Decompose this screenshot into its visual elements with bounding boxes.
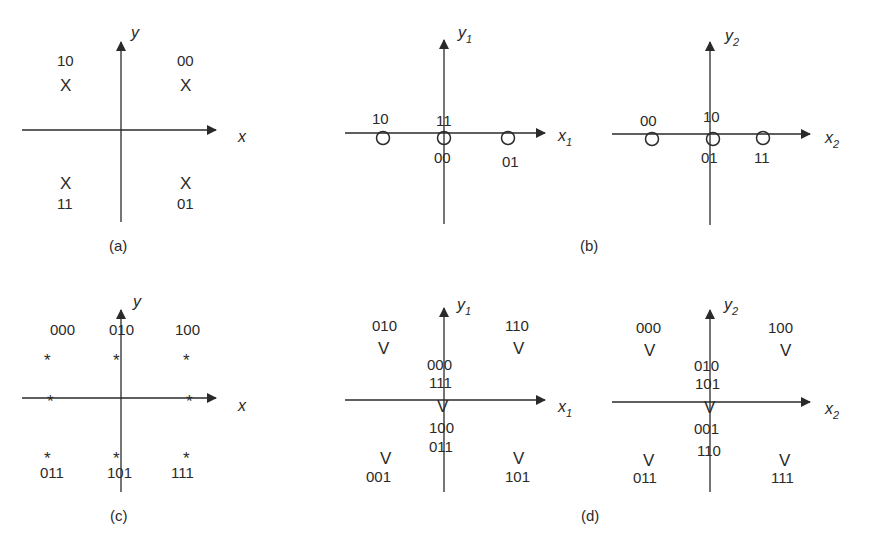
panel-c: y x 000 010 100 * * * * * * * * 011 101 … (22, 293, 247, 524)
caption-c: (c) (110, 507, 128, 524)
point-label: 010 (372, 317, 397, 334)
point-label: 000 (50, 321, 75, 338)
caption-b: (b) (580, 237, 598, 254)
point-label: 01 (701, 149, 718, 166)
panel-a: y x 10 X 00 X X 11 X 01 (a) (22, 24, 247, 254)
v-marker: V (704, 398, 716, 417)
panel-d-right: y2 x2 000 V 100 V 010 101 V 001 110 V 01… (581, 296, 839, 524)
panel-d-left: y1 x1 010 V 110 V 000 111 V 100 011 V 00… (345, 296, 572, 492)
v-marker: V (779, 451, 791, 470)
point-label: 101 (695, 375, 720, 392)
y2-axis-label: y2 (723, 296, 738, 317)
y1-axis-label: y1 (456, 296, 471, 317)
x-marker: X (180, 174, 191, 193)
point-label: 00 (177, 52, 194, 69)
point-label: 111 (171, 464, 194, 481)
point-label: 00 (640, 112, 657, 129)
asterisk-marker: * (183, 351, 190, 370)
constellation-figure: y x 10 X 00 X X 11 X 01 (a) y1 x1 10 11 … (0, 0, 872, 555)
point-label: 100 (768, 319, 793, 336)
point-label: 111 (771, 469, 794, 486)
x2-axis-label: x2 (824, 129, 839, 150)
v-marker: V (380, 449, 392, 468)
x-marker: X (60, 76, 71, 95)
point-label: 110 (505, 317, 529, 334)
point-label: 110 (697, 442, 721, 459)
y-axis-label: y (130, 24, 140, 41)
point-label: 011 (633, 469, 657, 486)
point-label: 011 (429, 438, 453, 455)
v-marker: V (378, 339, 390, 358)
y2-axis-label: y2 (724, 27, 739, 48)
point-label: 011 (40, 464, 64, 481)
asterisk-marker: * (44, 351, 51, 370)
v-marker: V (780, 341, 792, 360)
v-marker: V (513, 339, 525, 358)
point-label: 01 (177, 195, 194, 212)
point-label: 11 (436, 112, 452, 129)
point-label: 01 (502, 153, 519, 170)
point-label: 001 (694, 420, 719, 437)
y1-axis-label: y1 (457, 24, 472, 45)
point-label: 10 (703, 108, 720, 125)
x-marker: X (180, 76, 191, 95)
x2-axis-label: x2 (824, 400, 839, 421)
point-label: 10 (57, 52, 74, 69)
point-label: 000 (636, 319, 661, 336)
point-label: 101 (107, 464, 132, 481)
point-label: 00 (434, 149, 451, 166)
asterisk-marker: * (47, 392, 54, 411)
x1-axis-label: x1 (557, 127, 572, 148)
point-label: 001 (366, 468, 391, 485)
x1-axis-label: x1 (557, 398, 572, 419)
point-label: 11 (57, 195, 73, 212)
x-axis-label: x (237, 397, 247, 414)
point-label: 010 (109, 321, 134, 338)
v-marker: V (513, 449, 525, 468)
point-label: 100 (429, 419, 454, 436)
point-label: 101 (505, 468, 530, 485)
asterisk-marker: * (186, 392, 193, 411)
x-axis-label: x (237, 128, 247, 145)
y-axis-label: y (132, 293, 142, 310)
x-marker: X (60, 174, 71, 193)
point-label: 100 (175, 321, 200, 338)
panel-b-left: y1 x1 10 11 00 01 (345, 24, 572, 224)
v-marker: V (643, 451, 655, 470)
point-label: 10 (372, 110, 389, 127)
v-marker: V (437, 397, 449, 416)
panel-b-right: y2 x2 00 10 01 11 (b) (580, 27, 839, 254)
asterisk-marker: * (113, 351, 120, 370)
point-label: 11 (754, 149, 770, 166)
caption-a: (a) (109, 237, 127, 254)
point-label: 010 (694, 357, 719, 374)
point-label: 000 (427, 356, 452, 373)
point-label: 111 (429, 374, 452, 391)
caption-d: (d) (581, 507, 599, 524)
v-marker: V (644, 341, 656, 360)
